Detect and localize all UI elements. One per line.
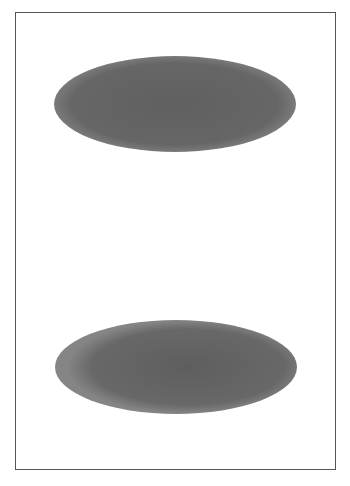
top-ellipse	[54, 56, 296, 152]
shapes-canvas	[0, 0, 350, 486]
bottom-ellipse	[55, 320, 297, 414]
